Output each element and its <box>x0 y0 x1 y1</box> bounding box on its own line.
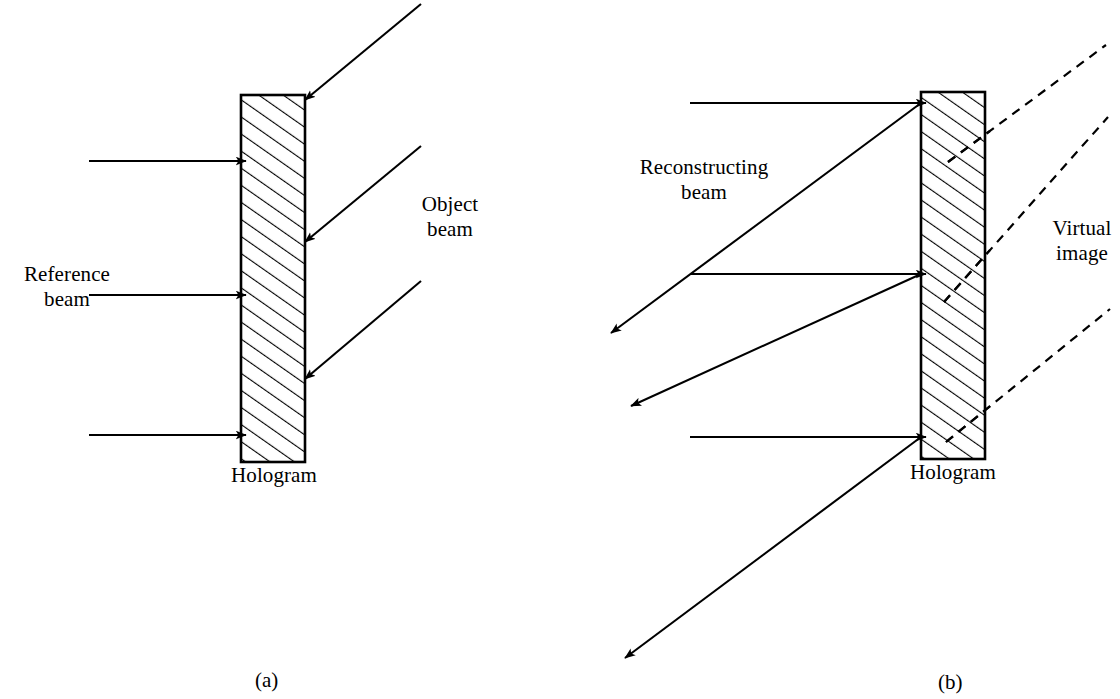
panel-b-group <box>611 45 1110 658</box>
diffracted-ray-1 <box>611 103 921 333</box>
reconstructing-beam-rays <box>690 103 926 437</box>
object-beam-label: Object beam <box>404 192 496 242</box>
panel-caption-a: (a) <box>255 668 278 692</box>
hologram-label-b: Hologram <box>897 460 1009 485</box>
diffracted-ray-2 <box>631 274 921 406</box>
object-ray-1 <box>305 4 421 100</box>
hologram-plate-b-rect <box>921 92 985 459</box>
hologram-plate-a <box>241 95 305 462</box>
holography-figure: Reference beam Object beam Hologram (a) … <box>0 0 1120 699</box>
hologram-plate-a-rect <box>241 95 305 462</box>
panel-a-group <box>89 4 421 462</box>
object-ray-3 <box>305 281 421 379</box>
diagram-canvas <box>0 0 1120 699</box>
diffracted-ray-3 <box>625 437 921 658</box>
virtual-image-label: Virtual image <box>1046 216 1118 266</box>
hologram-label-a: Hologram <box>218 463 330 488</box>
panel-caption-b: (b) <box>938 670 963 694</box>
reconstructing-beam-label: Reconstructing beam <box>630 155 778 205</box>
hologram-plate-b <box>921 92 985 459</box>
reference-beam-label: Reference beam <box>2 262 132 312</box>
